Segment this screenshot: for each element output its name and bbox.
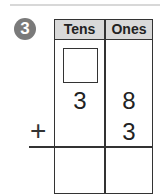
place-value-table: Tens Ones 3 8 3 bbox=[54, 19, 153, 194]
plus-sign: + bbox=[30, 117, 46, 145]
addend1-ones: 8 bbox=[114, 88, 144, 114]
answer-tens-cell[interactable] bbox=[65, 158, 95, 188]
addend1-tens: 3 bbox=[65, 88, 95, 114]
sum-line bbox=[29, 146, 153, 148]
carry-box[interactable] bbox=[63, 48, 98, 83]
header-tens: Tens bbox=[55, 20, 104, 39]
addend2-ones: 3 bbox=[114, 119, 144, 145]
answer-ones-cell[interactable] bbox=[114, 158, 144, 188]
top-divider bbox=[10, 4, 160, 6]
column-divider bbox=[104, 20, 106, 193]
problem-number-badge: 3 bbox=[14, 18, 36, 40]
header-ones: Ones bbox=[105, 20, 153, 39]
